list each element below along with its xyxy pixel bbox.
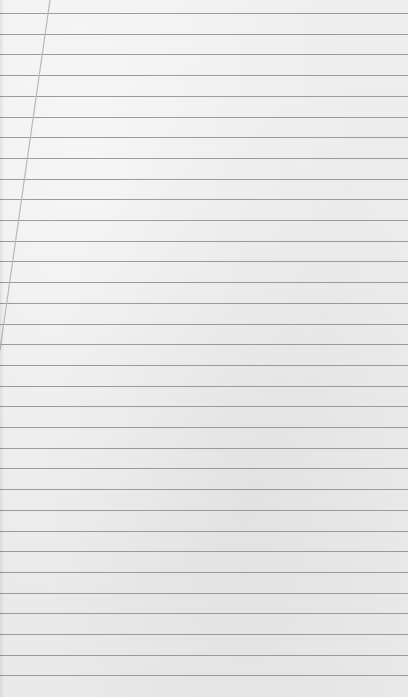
ruled-line — [0, 675, 408, 676]
ruled-line — [0, 593, 408, 594]
ruled-line — [0, 34, 408, 35]
ruled-line — [0, 303, 408, 304]
ruled-line — [0, 365, 408, 366]
ruled-line — [0, 386, 408, 387]
ruled-line — [0, 510, 408, 511]
ruled-line — [0, 282, 408, 283]
ruled-line — [0, 655, 408, 656]
ruled-line — [0, 344, 408, 345]
ruled-line — [0, 572, 408, 573]
ruled-line — [0, 137, 408, 138]
page-edge-shadow — [0, 0, 4, 697]
ruled-line — [0, 54, 408, 55]
ruled-line — [0, 324, 408, 325]
ruled-line — [0, 634, 408, 635]
ruled-line — [0, 613, 408, 614]
ruled-line — [0, 489, 408, 490]
ruled-line — [0, 531, 408, 532]
ruled-line — [0, 96, 408, 97]
ruled-line — [0, 220, 408, 221]
ruled-line — [0, 75, 408, 76]
ruled-line — [0, 551, 408, 552]
ruled-line — [0, 158, 408, 159]
ruled-line — [0, 448, 408, 449]
ruled-line — [0, 13, 408, 14]
ruled-line — [0, 427, 408, 428]
ruled-line — [0, 261, 408, 262]
lined-paper — [0, 0, 408, 697]
ruled-line — [0, 406, 408, 407]
ruled-line — [0, 117, 408, 118]
ruled-line — [0, 199, 408, 200]
ruled-line — [0, 241, 408, 242]
ruled-line — [0, 468, 408, 469]
ruled-line — [0, 179, 408, 180]
